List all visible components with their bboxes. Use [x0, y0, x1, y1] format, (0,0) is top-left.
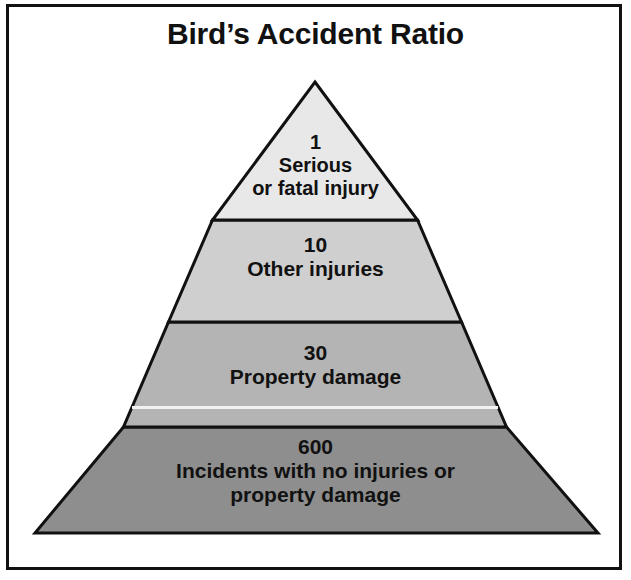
pyramid-tier-1-label: 1 Serious or fatal injury — [0, 131, 631, 199]
pyramid-tier-2-label: 10 Other injuries — [0, 233, 631, 281]
screenshot-root: Bird’s Accident Ratio 1 Serious or fatal… — [0, 0, 631, 580]
pyramid-diagram: 1 Serious or fatal injury 10 Other injur… — [0, 0, 631, 580]
pyramid-tier-3-label: 30 Property damage — [0, 341, 631, 389]
pyramid-tier-4-label: 600 Incidents with no injuries or proper… — [0, 435, 631, 507]
